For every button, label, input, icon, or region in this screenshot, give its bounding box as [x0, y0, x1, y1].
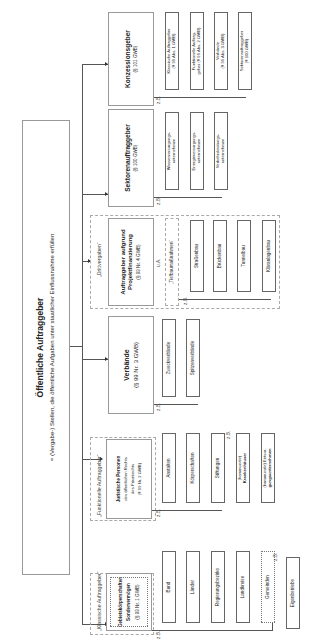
- klassische-item-landkreise: Landkreise: [236, 551, 250, 623]
- funktionelle-item-stiftungen: Stiftungen: [211, 433, 225, 503]
- funktionelle-tag: „Funktionelle Auftraggeber“: [96, 454, 102, 517]
- sektoren-item-verkehr: Verkehrsleistungs-unternehmen: [214, 112, 228, 190]
- projekt-box: Auftraggeber aufgrund Projektfinanzierun…: [108, 218, 154, 306]
- funktionelle-item-entsorgung: (kommunale) Entsor- gungsunternehmen: [261, 433, 275, 503]
- projekt-item-strassenbau: Straßenbau: [190, 220, 204, 292]
- konzession-item-funktionelle: Funktionelle Auftrag-geber (§ 99 Abs. 2 …: [190, 12, 204, 90]
- konzession-spine: [154, 97, 246, 98]
- title-heading: Öffentliche Auftraggeber: [36, 298, 46, 398]
- funktionelle-extra-zb: z.B.: [226, 431, 231, 439]
- projekt-title2: Projektfinanzierung: [127, 234, 134, 290]
- projekt-spine: [179, 299, 271, 300]
- konzession-item-klassische: Klassische Auftraggeber(§ 99 Abs. 1 GWB): [165, 12, 179, 90]
- klassische-box: Gebietskörperschaften Sondervermögen (§ …: [106, 573, 152, 631]
- funktionelle-ref: (§ 99 Nr. 2 GWB): [138, 463, 143, 495]
- funktionelle-line1: Juristische Personen: [116, 456, 121, 502]
- projekt-title1: Auftraggeber aufgrund: [120, 229, 127, 294]
- projekt-tag: „Drittvergaben“: [96, 242, 102, 277]
- sektoren-box: Sektorenauftraggeber (§ 100 GWB): [108, 109, 154, 207]
- diagram-stage: Öffentliche Auftraggeber = (Vergabe-) St…: [0, 0, 318, 639]
- funktionelle-item-anstalten: Anstalten: [162, 433, 176, 503]
- klassische-zb: z.B.: [156, 631, 161, 639]
- konzession-item-verbaende: Verbände(§ 99 Abs. 3 GWB): [214, 12, 228, 90]
- sektoren-item-wasser: Wasserversorgungs-unternehmen: [165, 112, 179, 190]
- klassische-item-eigenbetriebe: Eigenbetriebe: [286, 557, 300, 629]
- projekt-sub: „Tiefbaumaßnahmen“: [165, 218, 179, 306]
- funktionelle-spine: [152, 510, 222, 511]
- title-subtitle: = (Vergabe-) Stellen, die öffentliche Au…: [49, 234, 56, 462]
- projekt-item-klaeranlagenbau: Kläranlagenbau: [262, 220, 276, 292]
- projekt-zb: z.B.: [183, 297, 188, 305]
- konzession-title: Konzessionsgeber: [124, 30, 131, 88]
- title-connector: [70, 346, 82, 347]
- konzession-box: Konzessionsgeber (§ 101 GWB): [108, 12, 154, 106]
- sektoren-title: Sektorenauftraggeber: [124, 124, 131, 192]
- main-bus: [82, 64, 83, 625]
- title-box: Öffentliche Auftraggeber = (Vergabe-) St…: [22, 120, 70, 575]
- verbaende-item-zweck: Zweckverbände: [162, 319, 176, 397]
- funktionelle-item-krankenhaeuser: (kommunale) Krankenhäuser: [236, 433, 250, 503]
- verbaende-item-spitzen: Spitzenverbände: [186, 319, 200, 397]
- sektoren-ref: (§ 100 GWB): [133, 145, 138, 172]
- projekt-ua: u.A.: [156, 258, 161, 267]
- klassische-item-bund: Bund: [162, 551, 176, 623]
- klassische-item-gemeinden: Gemeinden: [261, 551, 275, 623]
- klassische-spine: [152, 630, 272, 631]
- sektoren-spine: [154, 197, 222, 198]
- projekt-ref: (§ 99 Nr. 4 GWB): [136, 244, 141, 279]
- funktionelle-line3: des Privatrechts: [131, 464, 136, 494]
- sektoren-item-energie: Energieversorgungs-unternehmen: [190, 112, 204, 190]
- verbaende-title: Verbände: [123, 349, 131, 381]
- verbaende-ref: (§ 99 Nr. 3 GWB): [133, 342, 140, 388]
- konzession-item-sektoren: Sektorenauftraggeber(§ 100 GWB): [238, 12, 252, 90]
- verbaende-spine: [154, 404, 198, 405]
- funktionelle-item-koerperschaften: Körperschaften: [186, 433, 200, 503]
- verbaende-box: Verbände (§ 99 Nr. 3 GWB): [108, 316, 154, 414]
- klassische-tag: „Klassische Auftraggeber“: [96, 572, 102, 631]
- projekt-item-brueckenbau: Brückenbau: [213, 220, 227, 292]
- klassische-item-laender: Länder: [186, 551, 200, 623]
- funktionelle-line2: des öffentlichen Rechts: [124, 457, 129, 500]
- projekt-item-tunnelbau: Tunnelbau: [237, 220, 251, 292]
- klassische-item-regierungsbezirke: Regierungsbezirke: [211, 551, 225, 623]
- gemeinden-zb: z.B.: [273, 553, 278, 561]
- funktionelle-box: Juristische Personen des öffentlichen Re…: [106, 439, 152, 519]
- konzession-ref: (§ 101 GWB): [133, 46, 138, 73]
